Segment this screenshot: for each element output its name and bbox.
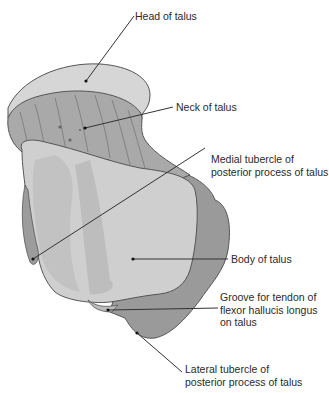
label-head-of-talus: Head of talus xyxy=(135,10,197,23)
label-body-of-talus: Body of talus xyxy=(231,253,292,266)
label-line: flexor hallucis longus xyxy=(220,304,317,317)
label-line: Lateral tubercle of xyxy=(185,363,302,376)
label-line: Groove for tendon of xyxy=(220,291,317,304)
label-line: Body of talus xyxy=(231,253,292,266)
label-neck-of-talus: Neck of talus xyxy=(176,101,237,114)
label-line: Medial tubercle of xyxy=(211,153,328,166)
label-line: Neck of talus xyxy=(176,101,237,114)
label-line: posterior process of talus xyxy=(211,166,328,179)
label-groove-fhl: Groove for tendon of flexor hallucis lon… xyxy=(220,291,317,329)
label-medial-tubercle: Medial tubercle of posterior process of … xyxy=(211,153,328,178)
label-lateral-tubercle: Lateral tubercle of posterior process of… xyxy=(185,363,302,388)
talus-illustration xyxy=(0,0,329,393)
label-line: Head of talus xyxy=(135,10,197,23)
label-line: on talus xyxy=(220,316,317,329)
talus-diagram: Head of talus Neck of talus Medial tuber… xyxy=(0,0,329,393)
label-line: posterior process of talus xyxy=(185,376,302,389)
